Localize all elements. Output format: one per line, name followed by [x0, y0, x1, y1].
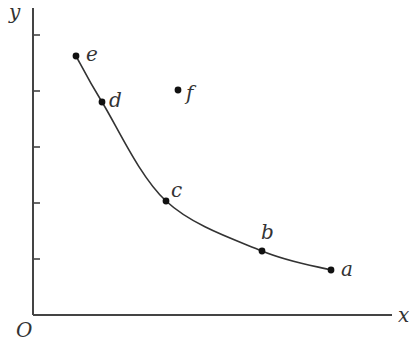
origin-label: O: [16, 318, 32, 342]
point-e: e: [73, 42, 98, 66]
point-f: f: [175, 81, 197, 105]
point-marker: [175, 87, 182, 94]
point-d: d: [99, 88, 122, 112]
point-marker: [259, 248, 266, 255]
point-label: a: [341, 257, 353, 281]
point-a: a: [328, 257, 353, 281]
indifference-curve-diagram: y x O edfcba: [0, 0, 419, 350]
point-label: c: [171, 178, 182, 202]
point-label: b: [261, 220, 274, 244]
point-marker: [73, 53, 80, 60]
x-axis-label: x: [398, 303, 409, 327]
y-axis-ticks: [33, 35, 40, 259]
y-axis-label: y: [8, 0, 21, 24]
point-marker: [163, 198, 170, 205]
point-label: e: [86, 42, 98, 66]
point-label: f: [184, 81, 197, 105]
point-c: c: [163, 178, 183, 204]
point-b: b: [259, 220, 274, 254]
point-label: d: [109, 88, 122, 112]
points: edfcba: [73, 42, 353, 281]
axes: y x O: [8, 0, 409, 342]
point-marker: [328, 267, 335, 274]
point-marker: [99, 99, 106, 106]
